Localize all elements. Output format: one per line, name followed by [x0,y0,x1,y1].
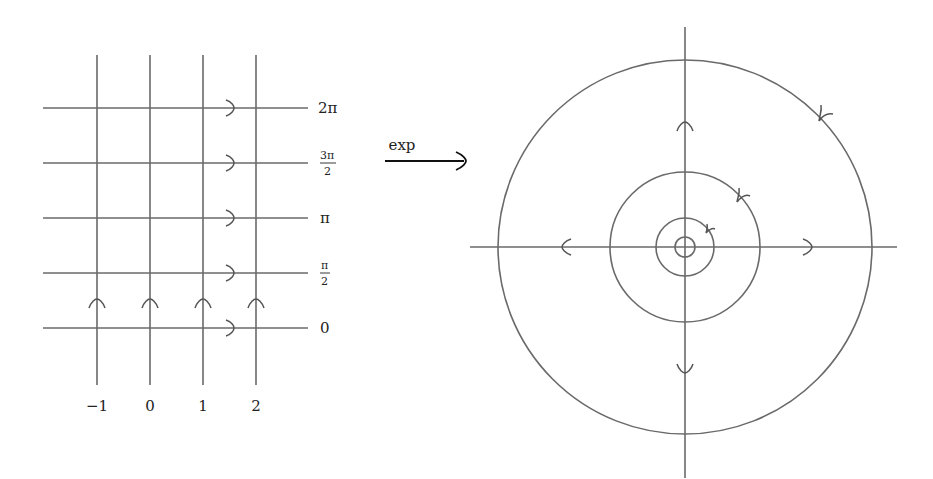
label-0-imag: 0 [320,319,330,337]
exp-label: exp [389,136,416,154]
label-3pi-over-2: 3π 2 [320,149,336,178]
left-grid: 2π 3π 2 π π 2 0 −1 0 1 2 [43,55,338,415]
counterclockwise-arrow-icon [706,105,833,233]
exp-mapping-diagram: 2π 3π 2 π π 2 0 −1 0 1 2 exp [0,0,933,479]
label-neg1: −1 [86,397,108,415]
exp-map-arrow: exp [385,136,466,170]
label-pi-over-2: π 2 [320,259,330,288]
svg-text:π: π [321,259,328,272]
svg-text:2: 2 [321,275,328,288]
svg-text:2: 2 [324,165,331,178]
right-plane [470,27,897,478]
label-pi: π [320,209,330,227]
label-2pi: 2π [318,99,338,117]
up-arrow-icon [89,299,264,308]
svg-text:3π: 3π [320,149,334,162]
label-1: 1 [198,397,208,415]
label-0-real: 0 [145,397,155,415]
label-2: 2 [251,397,261,415]
